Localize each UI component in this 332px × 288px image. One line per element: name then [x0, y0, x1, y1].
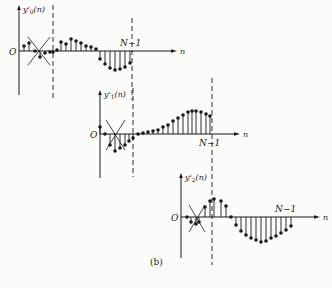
stem: [103, 51, 107, 66]
stem: [55, 48, 59, 52]
stem-dot: [284, 228, 288, 232]
stem-dot: [185, 215, 189, 219]
stem-dot: [279, 231, 283, 235]
stem: [136, 132, 140, 136]
stem-dot: [79, 41, 83, 45]
stem: [113, 51, 117, 72]
stem-dot: [199, 110, 203, 114]
stem-dot: [113, 68, 117, 72]
stem: [108, 51, 112, 70]
stem-dot: [189, 220, 193, 224]
stem: [171, 119, 175, 134]
x-axis-label: n: [323, 213, 328, 222]
stem-dot: [118, 67, 122, 71]
x-axis-arrow-icon: [171, 49, 177, 53]
stem-dot: [22, 44, 26, 48]
stem: [98, 125, 102, 134]
stem: [269, 217, 273, 240]
stem: [103, 132, 107, 136]
stem: [69, 37, 73, 51]
stem-dot: [229, 215, 233, 219]
stem: [98, 51, 102, 61]
stem: [199, 110, 203, 134]
panel-y1: OnN−1y'1(n): [90, 78, 248, 265]
stem-dot: [190, 109, 194, 113]
stem: [166, 123, 170, 134]
origin-label: O: [90, 130, 98, 140]
stem: [51, 50, 55, 54]
stem-dot: [141, 131, 145, 135]
stem-dot: [118, 146, 122, 150]
stem: [94, 47, 98, 51]
stem-dot: [219, 199, 223, 203]
stem-dot: [249, 236, 253, 240]
stem-dot: [181, 113, 185, 117]
stem-dot: [69, 37, 73, 41]
stem: [189, 217, 193, 224]
stem-dot: [244, 233, 248, 237]
end-index-label: N−1: [274, 204, 296, 214]
panel-y0: OnN−1y'0(n): [9, 5, 185, 100]
stem-dot: [203, 205, 207, 209]
stem-dot: [208, 199, 212, 203]
panel-y2: OnN−1y'2(n): [171, 173, 328, 258]
y-axis-label: y'0(n): [22, 5, 45, 15]
stem-dot: [103, 132, 107, 136]
y-axis-arrow-icon: [179, 173, 183, 178]
stem: [176, 116, 180, 134]
stem: [244, 217, 248, 237]
stem: [274, 217, 278, 238]
stem: [194, 109, 198, 134]
stem-dot: [38, 55, 42, 59]
stem-dot: [254, 238, 258, 242]
stem: [204, 112, 208, 134]
stem-dot: [33, 49, 37, 53]
stem-dot: [234, 223, 238, 227]
stem-dot: [151, 129, 155, 133]
stem: [190, 109, 194, 134]
stem-dot: [59, 40, 63, 44]
y-axis-arrow-icon: [17, 5, 21, 10]
x-axis-arrow-icon: [234, 132, 240, 136]
stem: [141, 131, 145, 135]
stem-dot: [197, 220, 201, 224]
y-axis-arrow-icon: [98, 90, 102, 95]
stem-dot: [186, 110, 190, 114]
stem: [208, 199, 212, 217]
stem: [33, 49, 37, 53]
stem-dot: [64, 42, 68, 46]
stem: [79, 41, 83, 51]
stem-dot: [128, 61, 132, 65]
stem-dot: [204, 112, 208, 116]
stem: [203, 205, 207, 217]
stem-dot: [166, 123, 170, 127]
stem-dot: [208, 114, 212, 118]
stem: [64, 42, 68, 51]
stem-dot: [127, 139, 131, 143]
origin-label: O: [9, 47, 17, 57]
stem-dot: [259, 240, 263, 244]
stem-dot: [123, 65, 127, 69]
stem-dot: [89, 45, 93, 49]
stem: [264, 217, 268, 243]
stem: [234, 217, 238, 227]
stem: [108, 134, 112, 147]
stem-dot: [55, 48, 59, 52]
stem-dot: [113, 149, 117, 153]
stem-dot: [27, 41, 31, 45]
stem: [161, 125, 165, 134]
stem-dot: [108, 66, 112, 70]
stem-dot: [131, 136, 135, 140]
stem-dot: [289, 224, 293, 228]
stem-dot: [156, 128, 160, 132]
stem: [229, 215, 233, 219]
stem-dot: [194, 222, 198, 226]
stem: [146, 130, 150, 134]
stem: [181, 113, 185, 134]
stem: [43, 51, 47, 55]
stem-dot: [136, 132, 140, 136]
stem: [284, 217, 288, 232]
stem: [131, 134, 135, 140]
stem-dot: [103, 62, 107, 66]
stem-dot: [98, 125, 102, 129]
